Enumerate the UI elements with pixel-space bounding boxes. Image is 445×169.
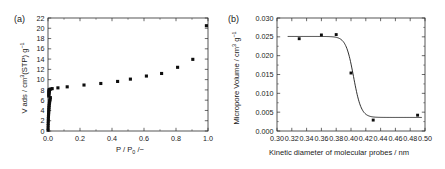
y-tick-label: 8 (41, 86, 45, 95)
x-tick-label: 0.44 (374, 134, 388, 143)
panel-a-y-axis-label: V ads / cm3(STP) g−1 (19, 42, 29, 113)
panel-b-datapoints (298, 33, 419, 121)
panel-a-x-axis-label: P / P0 /− (116, 145, 145, 155)
y-tick-label: 2 (41, 116, 45, 125)
panel-a-x-tick-labels: 0.00.20.40.60.81.0 (43, 134, 213, 143)
data-point (416, 114, 419, 117)
x-tick-label: 0.8 (171, 134, 181, 143)
y-tick-label: 4 (41, 106, 45, 115)
x-tick-label: 0.6 (139, 134, 149, 143)
y-tick-label: 0.000 (256, 127, 274, 136)
panel-a-label: (a) (14, 14, 25, 24)
x-tick-label: 0.4 (107, 134, 117, 143)
y-tick-label: 0.020 (256, 51, 274, 60)
panel-b-fit-curve (288, 36, 421, 117)
panel-a-adsorption-isotherm: (a) 0.00.20.40.60.81.0 02468101214161820… (0, 0, 222, 169)
x-tick-label: 0.34 (300, 134, 314, 143)
x-tick-label: 0.2 (75, 134, 85, 143)
data-point (176, 66, 179, 69)
data-point (66, 85, 69, 88)
data-point (335, 33, 338, 36)
y-tick-label: 0.030 (256, 14, 274, 23)
data-point (56, 86, 59, 89)
x-tick-label: 1.0 (203, 134, 213, 143)
panel-b-svg: (b) 0.300.320.340.360.380.400.420.440.46… (222, 0, 445, 169)
data-point (205, 24, 208, 27)
data-point (320, 34, 323, 37)
y-tick-label: 6 (41, 96, 45, 105)
x-tick-label: 0.40 (344, 134, 358, 143)
data-point (116, 80, 119, 83)
x-tick-label: 0.32 (285, 134, 299, 143)
panel-a-axes (48, 18, 208, 131)
y-tick-label: 0.025 (256, 32, 274, 41)
x-tick-label: 0.42 (359, 134, 373, 143)
panel-b-x-axis-label: Kinetic diameter of molecular probes / n… (269, 148, 409, 157)
y-tick-label: 16 (37, 44, 45, 53)
panel-b-label: (b) (228, 14, 239, 24)
x-tick-label: 0.46 (388, 134, 402, 143)
data-point (298, 37, 301, 40)
y-tick-label: 0.015 (256, 70, 274, 79)
sigmoid-fit-line (288, 36, 421, 117)
y-tick-label: 22 (37, 14, 45, 23)
data-point (99, 82, 102, 85)
x-tick-label: 0.50 (418, 134, 432, 143)
x-tick-label: 0.0 (43, 134, 53, 143)
y-tick-label: 20 (37, 24, 45, 33)
panel-a-datapoints (46, 24, 207, 132)
data-point (82, 83, 85, 86)
x-tick-label: 0.48 (403, 134, 417, 143)
y-tick-label: 18 (37, 34, 45, 43)
data-point (160, 72, 163, 75)
panel-b-x-tick-labels: 0.300.320.340.360.380.400.420.440.460.48… (270, 134, 432, 143)
data-point (129, 78, 132, 81)
y-tick-label: 0 (41, 127, 45, 136)
y-tick-label: 14 (37, 55, 45, 64)
data-point (350, 72, 353, 75)
panel-a-y-tick-labels: 0246810121416182022 (37, 14, 45, 136)
panel-b-y-axis-label: Micropore Volume / cm3 g−1 (231, 31, 241, 124)
panel-b-axes (277, 18, 425, 131)
panel-a-svg: (a) 0.00.20.40.60.81.0 02468101214161820… (0, 0, 222, 169)
y-tick-label: 0.005 (256, 108, 274, 117)
y-tick-label: 10 (37, 75, 45, 84)
x-tick-label: 0.38 (329, 134, 343, 143)
data-point (51, 87, 54, 90)
panel-b-micropore-volume: (b) 0.300.320.340.360.380.400.420.440.46… (222, 0, 445, 169)
panel-b-y-tick-labels: 0.0000.0050.0100.0150.0200.0250.030 (256, 14, 274, 136)
data-point (145, 74, 148, 77)
figure-container: (a) 0.00.20.40.60.81.0 02468101214161820… (0, 0, 445, 169)
data-point (372, 119, 375, 122)
data-point (191, 58, 194, 61)
y-tick-label: 12 (37, 65, 45, 74)
x-tick-label: 0.36 (314, 134, 328, 143)
y-tick-label: 0.010 (256, 89, 274, 98)
